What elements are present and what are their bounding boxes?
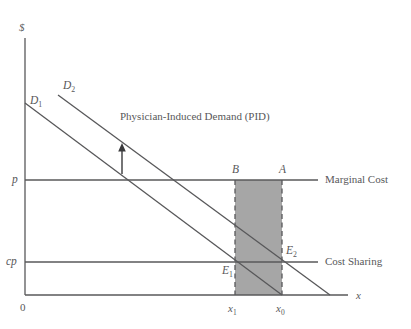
- quantity-tick-x0: x0: [276, 303, 285, 317]
- price-tick-p: p: [12, 174, 18, 186]
- point-label-e2-sub: 2: [293, 250, 297, 259]
- pid-annotation: Physician-Induced Demand (PID): [120, 111, 270, 122]
- x-axis-label: x: [356, 290, 361, 301]
- cost-sharing-label: Cost Sharing: [325, 256, 382, 267]
- curve-label-d1: D1: [30, 95, 42, 109]
- quantity-tick-x1-sub: 1: [233, 308, 237, 317]
- point-label-e1: E1: [222, 265, 233, 279]
- pid-shift-arrow: [118, 143, 126, 174]
- point-label-e1-sub: 1: [229, 270, 233, 279]
- marginal-cost-label: Marginal Cost: [325, 174, 388, 185]
- point-label-e1-base: E: [222, 264, 229, 276]
- point-label-e2-base: E: [286, 244, 293, 256]
- curve-label-d1-sub: 1: [38, 100, 42, 109]
- demand-curve-d2: [58, 95, 330, 295]
- point-label-e2: E2: [286, 245, 297, 259]
- point-label-a: A: [279, 164, 286, 176]
- price-tick-cp: cp: [6, 256, 17, 268]
- curve-label-d2: D2: [63, 80, 75, 94]
- curve-label-d2-sub: 2: [71, 85, 75, 94]
- point-label-b: B: [232, 164, 239, 176]
- physician-induced-demand-diagram: [0, 0, 411, 329]
- quantity-tick-x0-sub: 0: [281, 308, 285, 317]
- quantity-tick-x1: x1: [228, 303, 237, 317]
- y-axis-label: $: [19, 22, 25, 33]
- origin-label: 0: [20, 302, 26, 313]
